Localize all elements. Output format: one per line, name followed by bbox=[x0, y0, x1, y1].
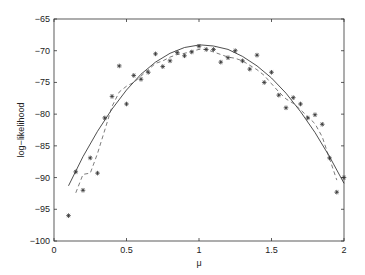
asterisk-marker bbox=[95, 171, 100, 176]
y-tick-label: −80 bbox=[35, 109, 50, 119]
y-tick-label: −100 bbox=[30, 236, 50, 246]
asterisk-marker bbox=[233, 48, 238, 53]
asterisk-marker bbox=[255, 53, 260, 58]
asterisk-marker bbox=[240, 59, 245, 64]
asterisk-marker bbox=[334, 190, 339, 195]
asterisk-marker bbox=[124, 102, 129, 107]
asterisk-marker bbox=[291, 95, 296, 100]
asterisk-marker bbox=[73, 170, 78, 175]
asterisk-marker bbox=[226, 55, 231, 60]
y-tick-label: −75 bbox=[35, 77, 50, 87]
x-tick-label: 1.5 bbox=[265, 245, 278, 255]
asterisk-marker bbox=[102, 116, 107, 121]
y-tick-label: −65 bbox=[35, 14, 50, 24]
plot-area bbox=[54, 19, 344, 241]
asterisk-marker bbox=[320, 122, 325, 127]
asterisk-marker bbox=[81, 188, 86, 193]
asterisk-marker bbox=[66, 213, 71, 218]
asterisk-marker bbox=[160, 64, 165, 69]
asterisk-marker bbox=[139, 77, 144, 82]
asterisk-marker bbox=[305, 116, 310, 121]
asterisk-marker bbox=[284, 106, 289, 111]
x-tick-label: 0 bbox=[51, 245, 56, 255]
asterisk-marker bbox=[175, 50, 180, 55]
asterisk-marker bbox=[189, 50, 194, 55]
x-tick-label: 0.5 bbox=[120, 245, 133, 255]
asterisk-marker bbox=[218, 60, 223, 65]
y-tick-label: −95 bbox=[35, 204, 50, 214]
asterisk-marker bbox=[146, 70, 151, 75]
asterisk-marker bbox=[182, 53, 187, 58]
asterisk-marker bbox=[110, 94, 115, 99]
y-tick-label: −85 bbox=[35, 141, 50, 151]
asterisk-marker bbox=[247, 67, 252, 72]
asterisk-marker bbox=[117, 64, 122, 69]
y-tick-label: −90 bbox=[35, 173, 50, 183]
asterisk-marker bbox=[298, 102, 303, 107]
asterisk-marker bbox=[262, 80, 267, 85]
asterisk-marker bbox=[131, 73, 136, 78]
asterisk-marker bbox=[327, 156, 332, 161]
log-likelihood-chart: −65−70−75−80−85−90−95−100 00.511.52 μ lo… bbox=[0, 0, 365, 275]
asterisk-marker bbox=[276, 93, 281, 98]
x-tick-label: 1 bbox=[196, 245, 201, 255]
asterisk-marker bbox=[88, 156, 93, 161]
y-tick-label: −70 bbox=[35, 46, 50, 56]
asterisk-marker bbox=[269, 70, 274, 75]
asterisk-marker bbox=[342, 175, 347, 180]
x-axis-label: μ bbox=[196, 258, 201, 268]
y-axis-label: log−likelihood bbox=[16, 103, 26, 158]
asterisk-marker bbox=[168, 59, 173, 64]
asterisk-marker bbox=[313, 112, 318, 117]
x-tick-label: 2 bbox=[341, 245, 346, 255]
